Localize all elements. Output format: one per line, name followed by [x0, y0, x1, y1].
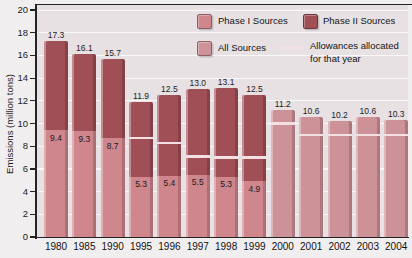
bar-1999-phase2 — [242, 95, 266, 181]
y-tick-label-8: 8 — [6, 140, 28, 151]
bar-1990-phase1 — [101, 138, 125, 237]
y-tick-label-18: 18 — [6, 27, 28, 38]
bar-1998-allowance-line — [214, 156, 238, 158]
bar-1996-phase2 — [157, 95, 181, 176]
y-tick-10 — [30, 123, 36, 124]
bar-1998-phase2 — [214, 88, 238, 177]
bar-1999-total-value: 12.5 — [238, 84, 270, 94]
bar-2004-all-sources — [384, 120, 408, 237]
bar-2002-allowance-line — [328, 134, 352, 136]
y-tick-label-20: 20 — [6, 4, 28, 15]
y-tick-label-2: 2 — [6, 208, 28, 219]
bar-1995-phase1-value: 5.3 — [125, 179, 157, 189]
bar-1985-phase2 — [72, 54, 96, 131]
bar-1996-allowance-line — [157, 142, 181, 144]
legend-label-phase1: Phase I Sources — [218, 15, 288, 28]
emissions-bar-chart: Emissions (million tons) Phase I Sources… — [0, 0, 412, 258]
bar-1999-phase1-value: 4.9 — [238, 184, 270, 194]
bar-1990-phase1-value: 8.7 — [97, 141, 129, 151]
bar-1980-phase2 — [44, 41, 68, 131]
y-tick-label-4: 4 — [6, 186, 28, 197]
bar-1996-total-value: 12.5 — [153, 84, 185, 94]
bar-2004-total-value: 10.3 — [380, 109, 412, 119]
y-tick-label-0: 0 — [6, 231, 28, 242]
bar-1990-phase2 — [101, 59, 125, 138]
bar-1995-allowance-line — [129, 137, 153, 139]
bar-1980-total-value: 17.3 — [40, 30, 72, 40]
bar-1985-phase1-value: 9.3 — [68, 134, 100, 144]
y-tick-label-14: 14 — [6, 72, 28, 83]
gridline-18 — [36, 32, 408, 33]
bar-2002-total-value: 10.2 — [324, 110, 356, 120]
y-tick-label-12: 12 — [6, 95, 28, 106]
x-axis-line — [35, 237, 409, 239]
bar-1985-phase1 — [72, 131, 96, 237]
y-tick-label-6: 6 — [6, 163, 28, 174]
bar-2004-allowance-line — [384, 134, 408, 136]
legend-swatch-all-sources — [197, 41, 212, 56]
bar-2002-all-sources — [328, 121, 352, 237]
y-tick-8 — [30, 146, 36, 147]
bar-2000-allowance-line — [271, 122, 295, 124]
legend-label-all-sources: All Sources — [218, 42, 266, 55]
bar-1980-phase1-value: 9.4 — [40, 133, 72, 143]
y-tick-2 — [30, 214, 36, 215]
bar-1997-phase2 — [186, 89, 210, 174]
bar-1997-phase1-value: 5.5 — [182, 177, 214, 187]
bar-2003-total-value: 10.6 — [352, 106, 384, 116]
y-tick-12 — [30, 100, 36, 101]
y-tick-4 — [30, 191, 36, 192]
bar-1997-allowance-line — [186, 155, 210, 157]
legend-swatch-allowances-line — [282, 46, 304, 49]
bar-1999-allowance-line — [242, 156, 266, 158]
bar-2001-total-value: 10.6 — [295, 106, 327, 116]
y-tick-label-10: 10 — [6, 118, 28, 129]
bar-2001-allowance-line — [299, 134, 323, 136]
legend-label-allowances: Allowances allocated for that year — [310, 40, 412, 65]
x-axis-label-2004: 2004 — [379, 241, 412, 252]
y-tick-16 — [30, 55, 36, 56]
y-tick-0 — [30, 236, 36, 237]
legend-swatch-phase1 — [197, 14, 212, 29]
y-axis-line — [35, 4, 37, 239]
bar-1985-total-value: 16.1 — [68, 43, 100, 53]
y-tick-20 — [30, 9, 36, 10]
bar-1995-total-value: 11.9 — [125, 91, 157, 101]
legend-label-phase2: Phase II Sources — [323, 15, 395, 28]
bar-1996-phase1-value: 5.4 — [153, 178, 185, 188]
y-tick-14 — [30, 78, 36, 79]
bar-1998-total-value: 13.1 — [210, 77, 242, 87]
bar-1997-total-value: 13.0 — [182, 78, 214, 88]
y-tick-6 — [30, 168, 36, 169]
bar-1998-phase1-value: 5.3 — [210, 179, 242, 189]
y-tick-label-16: 16 — [6, 49, 28, 60]
bar-1980-phase1 — [44, 130, 68, 237]
y-tick-18 — [30, 32, 36, 33]
bar-2000-total-value: 11.2 — [267, 99, 299, 109]
bar-1990-total-value: 15.7 — [97, 48, 129, 58]
gridline-20 — [36, 10, 408, 11]
bar-2003-allowance-line — [356, 134, 380, 136]
legend-swatch-phase2 — [303, 14, 318, 29]
bar-2000-all-sources — [271, 110, 295, 237]
